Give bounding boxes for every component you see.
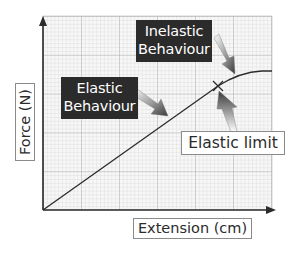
elastic-label-line1: Elastic bbox=[61, 79, 138, 97]
inelastic-behaviour-label: Inelastic Behaviour bbox=[136, 20, 212, 62]
x-axis-label: Extension (cm) bbox=[133, 218, 252, 239]
inelastic-label-line1: Inelastic bbox=[136, 22, 212, 40]
elastic-limit-label: Elastic limit bbox=[181, 131, 285, 155]
elastic-label-line2: Behaviour bbox=[61, 97, 138, 115]
y-axis-label: Force (N) bbox=[15, 83, 35, 161]
x-axis-label-text: Extension (cm) bbox=[138, 220, 247, 236]
elastic-limit-text: Elastic limit bbox=[188, 134, 278, 152]
inelastic-label-line2: Behaviour bbox=[136, 40, 212, 58]
elastic-behaviour-label: Elastic Behaviour bbox=[61, 77, 138, 119]
y-axis-label-text: Force (N) bbox=[17, 89, 33, 155]
